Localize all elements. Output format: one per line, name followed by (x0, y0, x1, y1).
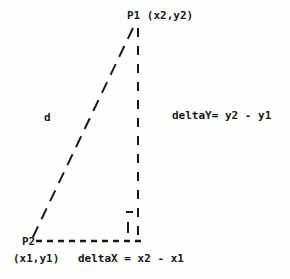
hypotenuse-line (32, 28, 133, 239)
point-p2-coords-label: (x1,y1) (13, 253, 59, 265)
delta-x-label: deltaX = x2 - x1 (78, 253, 184, 265)
delta-y-label: deltaY= y2 - y1 (172, 110, 271, 122)
distance-formula-diagram: P1 (x2,y2) deltaY= y2 - y1 d P2 (x1,y1) … (0, 0, 290, 279)
diagram-lines (0, 0, 290, 279)
point-p1-label: P1 (x2,y2) (127, 10, 193, 22)
point-p2-label: P2 (22, 236, 35, 248)
hypotenuse-label: d (44, 112, 51, 124)
